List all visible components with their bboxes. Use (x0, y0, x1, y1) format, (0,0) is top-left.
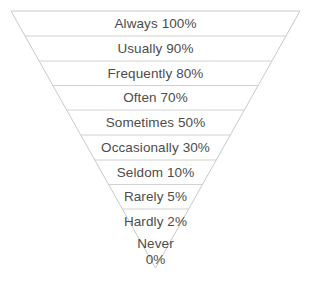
funnel-diagram (0, 0, 311, 285)
funnel-outline (11, 11, 300, 268)
funnel-chart: Always 100% Usually 90% Frequently 80% O… (0, 0, 311, 285)
